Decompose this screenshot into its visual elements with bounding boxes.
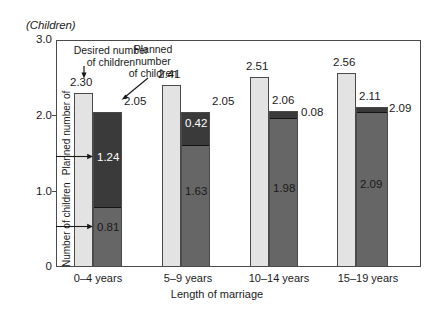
- additional-value-label-group-1: 1.24: [97, 151, 119, 163]
- annotation-planned-number-of-children: Planned number of children: [116, 43, 190, 79]
- additional-value-label-group-2: 0.42: [185, 117, 207, 129]
- caption-present-line1: Number of children: [61, 183, 72, 267]
- children-present-segment-group-2[interactable]: [182, 145, 209, 266]
- desired-value-label-group-4: 2.56: [333, 56, 355, 68]
- desired-bar-group-2[interactable]: [162, 85, 181, 267]
- present-value-label-group-1: 0.81: [97, 221, 119, 233]
- x-category-label-4: 15–19 years: [313, 272, 423, 284]
- y-tick-label-3: 3.0: [36, 33, 52, 45]
- planned-total-label-group-2: 2.05: [212, 95, 234, 107]
- present-value-label-group-3: 1.98: [273, 182, 295, 194]
- planned-total-label-group-4: 2.11: [359, 90, 381, 102]
- x-category-label-2: 5–9 years: [138, 272, 238, 284]
- planned-total-label-group-1: 2.05: [124, 95, 146, 107]
- desired-bar-group-4[interactable]: [337, 73, 356, 267]
- present-value-label-group-4: 2.09: [360, 178, 382, 190]
- x-category-label-1: 0–4 years: [48, 272, 148, 284]
- y-tick-label-2: 2.0: [36, 109, 52, 121]
- y-tick-label-1: 1.0: [36, 185, 52, 197]
- x-axis-title: Length of marriage: [0, 288, 434, 300]
- y-tick-label-0: 0: [46, 260, 52, 272]
- present-value-label-group-2: 1.63: [185, 185, 207, 197]
- desired-bar-group-3[interactable]: [250, 77, 269, 267]
- y-axis: 3.0 2.0 1.0 0: [0, 0, 52, 312]
- additional-value-label-group-4: 2.09: [389, 102, 411, 114]
- desired-value-label-group-3: 2.51: [246, 60, 268, 72]
- desired-value-label-group-1: 2.30: [70, 76, 92, 88]
- caption-additional-line1: Planned number of: [61, 91, 72, 176]
- children-present-segment-group-1[interactable]: [94, 207, 121, 266]
- planned-bar-group-1[interactable]: [93, 112, 122, 267]
- planned-total-label-group-3: 2.06: [272, 94, 294, 106]
- desired-bar-group-1[interactable]: [74, 93, 93, 267]
- annotation-planned-line2: number: [135, 55, 171, 67]
- additional-value-label-group-3: 0.08: [301, 106, 323, 118]
- chart-canvas: (Children) 3.0 2.0 1.0 0 Planned number …: [0, 0, 434, 312]
- annotation-planned-line3: of children: [129, 67, 177, 79]
- annotation-planned-line1: Planned: [134, 43, 173, 55]
